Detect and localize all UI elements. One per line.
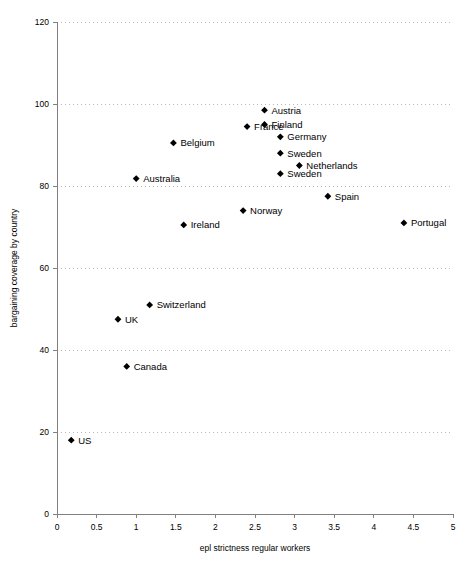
data-point: Belgium <box>170 137 215 148</box>
point-marker-9 <box>261 107 268 114</box>
data-point: Germany <box>277 131 327 142</box>
y-tick-label-120: 120 <box>35 17 49 27</box>
point-label-2: Canada <box>134 361 168 372</box>
gridlines-group <box>57 22 453 432</box>
x-tick-label-2-5: 2.5 <box>249 522 261 532</box>
point-marker-12 <box>277 150 284 157</box>
point-label-3: Australia <box>143 173 181 184</box>
point-label-4: Switzerland <box>157 299 206 310</box>
y-axis-ticks: 020406080100120 <box>35 17 57 519</box>
scatter-chart: 020406080100120 00.511.522.533.544.55 US… <box>0 0 475 570</box>
point-label-1: UK <box>125 314 139 325</box>
data-point: Ireland <box>180 219 219 230</box>
point-marker-16 <box>400 220 407 227</box>
data-point: Portugal <box>400 217 446 228</box>
data-point: Australia <box>133 173 181 184</box>
point-marker-3 <box>133 175 140 182</box>
x-tick-label-0-5: 0.5 <box>91 522 103 532</box>
point-label-0: US <box>78 435 91 446</box>
y-tick-label-100: 100 <box>35 99 49 109</box>
y-tick-label-20: 20 <box>40 427 50 437</box>
data-point: US <box>68 435 92 446</box>
data-point: Norway <box>240 205 283 216</box>
point-marker-7 <box>240 207 247 214</box>
point-label-5: Belgium <box>180 137 214 148</box>
x-tick-label-5: 5 <box>451 522 456 532</box>
x-tick-label-1-5: 1.5 <box>170 522 182 532</box>
data-point: Sweden <box>277 148 322 159</box>
data-point: UK <box>115 314 139 325</box>
point-marker-1 <box>115 316 122 323</box>
point-label-6: Ireland <box>191 219 220 230</box>
point-marker-5 <box>170 140 177 147</box>
data-points-group: USUKCanadaAustraliaSwitzerlandBelgiumIre… <box>68 105 446 446</box>
x-tick-label-4: 4 <box>371 522 376 532</box>
point-marker-0 <box>68 437 75 444</box>
point-marker-2 <box>123 363 130 370</box>
point-marker-15 <box>324 193 331 200</box>
data-point: Spain <box>324 191 359 202</box>
x-tick-label-3-5: 3.5 <box>328 522 340 532</box>
point-label-10: Finland <box>272 119 303 130</box>
point-marker-13 <box>277 170 284 177</box>
x-tick-label-1: 1 <box>134 522 139 532</box>
y-axis-title: bargaining coverage by country <box>9 208 19 327</box>
data-point: Canada <box>123 361 167 372</box>
data-point: Austria <box>261 105 302 116</box>
y-tick-label-60: 60 <box>40 263 50 273</box>
x-tick-label-3: 3 <box>292 522 297 532</box>
point-label-7: Norway <box>250 205 282 216</box>
y-tick-label-40: 40 <box>40 345 50 355</box>
x-axis-title: epl strictness regular workers <box>200 543 311 553</box>
x-axis-ticks: 00.511.522.533.544.55 <box>55 514 456 532</box>
x-tick-label-4-5: 4.5 <box>407 522 419 532</box>
point-label-15: Spain <box>335 191 359 202</box>
data-point: Switzerland <box>146 299 206 310</box>
x-tick-label-2: 2 <box>213 522 218 532</box>
point-label-16: Portugal <box>411 217 446 228</box>
point-marker-6 <box>180 222 187 229</box>
chart-canvas: 020406080100120 00.511.522.533.544.55 US… <box>0 0 475 570</box>
x-tick-label-0: 0 <box>55 522 60 532</box>
point-marker-4 <box>146 302 153 309</box>
point-marker-8 <box>244 123 251 130</box>
y-tick-label-80: 80 <box>40 181 50 191</box>
point-label-9: Austria <box>272 105 302 116</box>
y-tick-label-0: 0 <box>44 509 49 519</box>
point-label-14: Netherlands <box>306 160 357 171</box>
point-label-12: Sweden <box>287 148 321 159</box>
point-label-11: Germany <box>287 131 326 142</box>
point-marker-11 <box>277 133 284 140</box>
